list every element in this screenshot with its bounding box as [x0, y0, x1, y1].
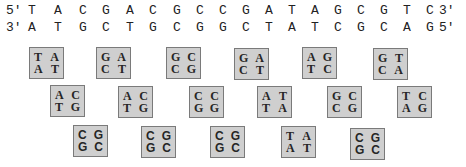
box-base: C	[239, 64, 248, 76]
box-base: C	[162, 142, 171, 154]
bottom-base: A	[285, 20, 299, 36]
dinucleotide-box: G A C T	[96, 47, 131, 79]
dinucleotide-box: T A A T	[29, 47, 64, 79]
box-base: G	[355, 144, 364, 156]
box-base: G	[210, 102, 219, 114]
top-base: C	[216, 3, 230, 19]
dinucleotide-box: C C G G	[189, 86, 224, 118]
dinucleotide-box: A T T A	[257, 86, 292, 118]
bottom-base: G	[354, 20, 368, 36]
dinucleotide-box: A C T G	[118, 86, 153, 118]
box-base: G	[194, 102, 203, 114]
top-base: G	[99, 3, 113, 19]
top-base: G	[331, 3, 345, 19]
box-base: A	[278, 102, 287, 114]
box-base: G	[418, 102, 427, 114]
dinucleotide-box: C G G C	[73, 125, 108, 157]
bottom-base: A	[25, 20, 39, 36]
box-base: G	[139, 102, 148, 114]
dinucleotide-box: A G T C	[302, 47, 337, 79]
box-base: T	[118, 63, 126, 75]
dinucleotide-box: C G G C	[350, 128, 385, 160]
top-strand-5prime-label: 5'	[6, 3, 22, 19]
box-base: T	[262, 102, 270, 114]
bottom-base: T	[308, 20, 322, 36]
bottom-base: G	[193, 20, 207, 36]
bottom-strand-3prime-label: 3'	[6, 20, 22, 36]
bottom-base: T	[51, 20, 65, 36]
top-base: G	[239, 3, 253, 19]
bottom-base: G	[216, 20, 230, 36]
bottom-base: C	[377, 20, 391, 36]
box-base: G	[146, 142, 155, 154]
top-base: G	[377, 3, 391, 19]
box-base: C	[101, 63, 110, 75]
box-base: T	[55, 101, 63, 113]
bottom-strand-5prime-label: 5'	[439, 20, 455, 36]
dinucleotide-box: T A A T	[281, 126, 316, 158]
dinucleotide-box: G A C T	[234, 48, 269, 80]
box-base: C	[94, 141, 103, 153]
box-base: C	[231, 142, 240, 154]
bottom-base: G	[76, 20, 90, 36]
dinucleotide-box: G C C G	[166, 47, 201, 79]
dinucleotide-box: C G G C	[210, 126, 245, 158]
bottom-base: G	[423, 20, 437, 36]
box-base: T	[123, 102, 131, 114]
bottom-base: A	[400, 20, 414, 36]
box-base: C	[378, 64, 387, 76]
top-base: C	[423, 3, 437, 19]
dinucleotide-box: T C A G	[397, 86, 432, 118]
box-base: C	[332, 102, 341, 114]
box-base: T	[307, 63, 315, 75]
top-base: C	[146, 3, 160, 19]
bottom-base: C	[170, 20, 184, 36]
box-base: G	[187, 63, 196, 75]
top-strand-3prime-label: 3'	[439, 3, 455, 19]
box-base: C	[323, 63, 332, 75]
bottom-base: G	[146, 20, 160, 36]
box-base: A	[402, 102, 411, 114]
box-base: G	[215, 142, 224, 154]
box-base: A	[34, 63, 43, 75]
box-base: T	[256, 64, 264, 76]
bottom-base: C	[239, 20, 253, 36]
top-base: G	[170, 3, 184, 19]
top-base: A	[262, 3, 276, 19]
top-base: T	[25, 3, 39, 19]
top-base: C	[354, 3, 368, 19]
box-base: T	[51, 63, 59, 75]
top-base: A	[308, 3, 322, 19]
box-base: G	[78, 141, 87, 153]
dinucleotide-box: G C C G	[327, 86, 362, 118]
bottom-base: C	[99, 20, 113, 36]
box-base: A	[286, 142, 295, 154]
bottom-base: C	[331, 20, 345, 36]
box-base: C	[171, 63, 180, 75]
box-base: C	[371, 144, 380, 156]
box-base: G	[71, 101, 80, 113]
top-base: C	[193, 3, 207, 19]
box-base: G	[348, 102, 357, 114]
dinucleotide-box: C G G C	[141, 126, 176, 158]
top-base: C	[76, 3, 90, 19]
top-base: A	[51, 3, 65, 19]
dinucleotide-box: A C T G	[50, 85, 85, 117]
dinucleotide-box: G T C A	[373, 48, 408, 80]
box-base: A	[394, 64, 403, 76]
bottom-base: T	[262, 20, 276, 36]
bottom-base: T	[123, 20, 137, 36]
box-base: T	[303, 142, 311, 154]
top-base: T	[400, 3, 414, 19]
top-base: A	[123, 3, 137, 19]
top-base: T	[285, 3, 299, 19]
